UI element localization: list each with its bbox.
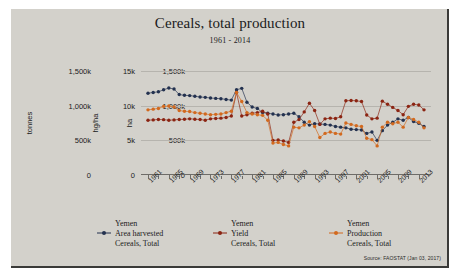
data-point xyxy=(334,125,337,128)
legend-item[interactable]: YemenArea harvestedCereals, Total xyxy=(97,219,195,253)
data-point xyxy=(172,105,175,108)
data-point xyxy=(230,110,233,113)
data-point xyxy=(391,122,394,125)
legend-label-line: Yemen xyxy=(347,219,391,229)
data-point xyxy=(172,87,175,90)
data-point xyxy=(230,98,233,101)
chart-card: Cereals, total production 1961 - 2014 to… xyxy=(11,9,449,268)
legend-label: YemenYieldCereals, Total xyxy=(231,219,275,249)
data-point xyxy=(146,91,149,94)
data-point xyxy=(370,130,373,133)
plot-area xyxy=(141,71,431,175)
data-point xyxy=(183,94,186,97)
legend-marker-icon xyxy=(213,222,227,240)
data-point xyxy=(339,115,342,118)
data-point xyxy=(412,103,415,106)
data-point xyxy=(204,119,207,122)
data-point xyxy=(308,120,311,123)
data-point xyxy=(339,125,342,128)
data-point xyxy=(344,99,347,102)
data-point xyxy=(193,117,196,120)
data-point xyxy=(178,109,181,112)
data-point xyxy=(214,113,217,116)
data-point xyxy=(297,118,300,121)
data-point xyxy=(329,130,332,133)
data-point xyxy=(204,112,207,115)
data-point xyxy=(235,91,238,94)
chart-subtitle: 1961 - 2014 xyxy=(11,36,449,45)
data-point xyxy=(193,95,196,98)
x-axis-labels: 1961196519691973197719811985198919931997… xyxy=(141,179,431,213)
data-point xyxy=(261,110,264,113)
legend-label-line: Cereals, Total xyxy=(231,239,275,249)
data-point xyxy=(360,125,363,128)
data-point xyxy=(412,118,415,121)
data-point xyxy=(266,119,269,122)
data-point xyxy=(167,119,170,122)
legend-item[interactable]: YemenYieldCereals, Total xyxy=(213,219,311,253)
y-axis-ha: ha 1,500k 1,000k 500k 0 xyxy=(87,71,137,175)
data-point xyxy=(282,143,285,146)
y-axis-tonnes: tonnes 1,500k 1,000k 500k 0 xyxy=(29,71,91,175)
data-point xyxy=(313,125,316,128)
data-point xyxy=(224,111,227,114)
data-point xyxy=(167,104,170,107)
data-point xyxy=(162,105,165,108)
data-point xyxy=(276,113,279,116)
data-point xyxy=(256,113,259,116)
data-point xyxy=(209,96,212,99)
data-point xyxy=(396,117,399,120)
data-point xyxy=(250,105,253,108)
data-point xyxy=(401,125,404,128)
data-point xyxy=(183,117,186,120)
data-point xyxy=(250,112,253,115)
data-point xyxy=(188,110,191,113)
data-point xyxy=(407,105,410,108)
data-point xyxy=(355,124,358,127)
data-point xyxy=(349,123,352,126)
data-point xyxy=(308,123,311,126)
data-point xyxy=(152,107,155,110)
legend-label-line: Yemen xyxy=(115,219,163,229)
data-point xyxy=(157,118,160,121)
data-point xyxy=(370,117,373,120)
data-point xyxy=(422,108,425,111)
data-point xyxy=(334,117,337,120)
data-point xyxy=(157,90,160,93)
data-point xyxy=(240,114,243,117)
data-point xyxy=(266,112,269,115)
data-point xyxy=(344,121,347,124)
data-point xyxy=(401,113,404,116)
data-point xyxy=(214,117,217,120)
legend-marker-icon xyxy=(97,222,111,240)
data-point xyxy=(417,103,420,106)
data-point xyxy=(292,121,295,124)
data-point xyxy=(386,103,389,106)
data-point xyxy=(245,111,248,114)
legend-label-line: Cereals, Total xyxy=(347,239,391,249)
data-point xyxy=(396,109,399,112)
data-point xyxy=(162,88,165,91)
data-point xyxy=(407,116,410,119)
data-point xyxy=(178,118,181,121)
data-point xyxy=(198,118,201,121)
legend-marker-icon xyxy=(329,222,343,240)
data-point xyxy=(375,144,378,147)
legend-label-line: Cereals, Total xyxy=(115,239,163,249)
data-point xyxy=(198,112,201,115)
data-point xyxy=(334,132,337,135)
data-point xyxy=(318,123,321,126)
data-point xyxy=(303,110,306,113)
data-point xyxy=(355,99,358,102)
chart-legend: YemenArea harvestedCereals, TotalYemenYi… xyxy=(97,219,427,253)
data-point xyxy=(204,96,207,99)
y-axis-ha-title: ha xyxy=(125,119,134,127)
legend-label-line: Area harvested xyxy=(115,229,163,239)
data-point xyxy=(313,109,316,112)
data-point xyxy=(172,118,175,121)
legend-item[interactable]: YemenProductionCereals, Total xyxy=(329,219,427,253)
data-point xyxy=(417,121,420,124)
data-point xyxy=(360,100,363,103)
data-point xyxy=(188,94,191,97)
data-point xyxy=(183,110,186,113)
